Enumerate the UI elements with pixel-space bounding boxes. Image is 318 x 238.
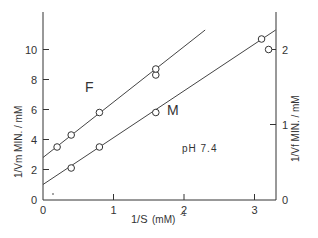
data-points [54,36,272,172]
data-point-m [153,109,160,116]
x-tick-label: 0 [40,204,46,216]
x-axis-label-exp: -1 [180,210,186,217]
left-y-tick-label: 10 [25,44,37,56]
left-y-tick-label: 4 [31,134,37,146]
stray-dot [52,193,54,195]
x-tick-label: 3 [252,204,258,216]
left-y-tick-label: 8 [31,74,37,86]
left-y-tick-label: 0 [31,194,37,206]
right-y-tick-label: 2 [282,44,288,56]
left-y-tick-label: 6 [31,104,37,116]
x-axis-label: 1/S (mM) -1 [131,210,186,225]
left-y-tick-label: 2 [31,164,37,176]
fit-line-f [43,30,205,158]
x-axis-label-unit: (mM) [152,214,175,225]
x-tick-label: 1 [111,204,117,216]
axes [43,12,276,200]
ph-annotation: pH 7.4 [182,143,217,154]
series-label-m: M [167,102,179,118]
data-point-f [96,109,103,116]
right-y-axis-label: 1/Vf MIN. / mM [290,95,301,162]
data-point-m [68,165,75,172]
data-point-m [96,144,103,151]
lineweaver-burk-chart: 01230246810012 F M pH 7.4 1/S (mM) -1 1/… [0,0,318,238]
left-y-axis-label: 1/Vm MIN. / mM [13,106,24,178]
fit-lines [43,30,276,185]
x-axis-label-main: 1/S [131,213,148,225]
right-y-tick-label: 1 [282,119,288,131]
series-label-f: F [85,79,94,95]
data-point-f [54,144,61,151]
data-point-f [68,132,75,139]
data-point-f [153,66,160,73]
fit-line-m [43,30,276,185]
right-y-tick-label: 0 [282,194,288,206]
data-point-m [265,46,272,53]
data-point-m [258,36,265,43]
tick-marks [43,50,276,201]
